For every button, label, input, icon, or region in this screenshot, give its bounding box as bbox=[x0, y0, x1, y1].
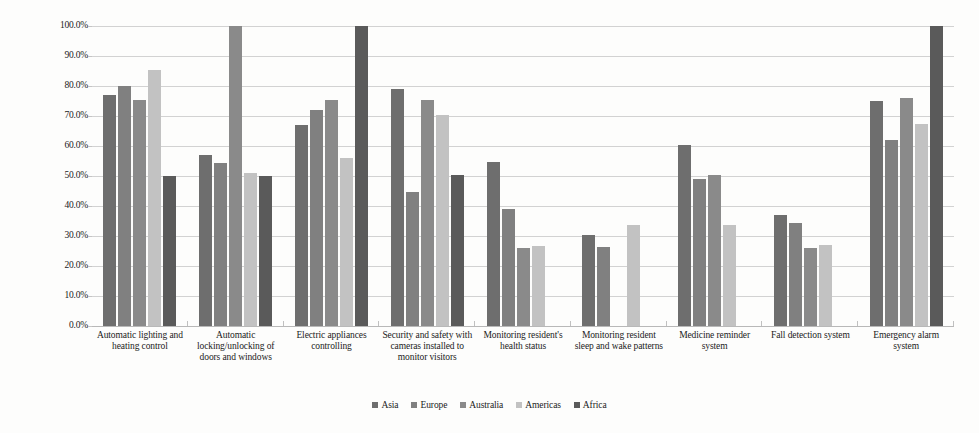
bar-groups bbox=[92, 26, 954, 326]
bar bbox=[148, 70, 161, 326]
y-axis-tick-label: 30.0% bbox=[30, 231, 88, 241]
bar bbox=[391, 89, 404, 326]
legend-item[interactable]: Africa bbox=[574, 400, 607, 410]
bar bbox=[310, 110, 323, 326]
bar bbox=[406, 192, 419, 326]
category-label: Monitoring resident sleep and wake patte… bbox=[571, 330, 667, 396]
bar bbox=[870, 101, 883, 326]
bar-group bbox=[188, 26, 284, 326]
legend-swatch-icon bbox=[411, 402, 417, 408]
legend-swatch-icon bbox=[372, 402, 378, 408]
bar bbox=[133, 100, 146, 326]
legend-label: Europe bbox=[420, 400, 447, 410]
bar-group bbox=[858, 26, 954, 326]
bar bbox=[693, 179, 706, 326]
y-axis-tick-label: 70.0% bbox=[30, 111, 88, 121]
category-label: Fall detection system bbox=[762, 330, 858, 396]
y-axis-tick-label: 80.0% bbox=[30, 81, 88, 91]
bar-group bbox=[475, 26, 571, 326]
bar bbox=[244, 173, 257, 326]
bar bbox=[789, 223, 802, 327]
legend-label: Australia bbox=[469, 400, 503, 410]
bar bbox=[915, 124, 928, 327]
legend-swatch-icon bbox=[516, 402, 522, 408]
bar bbox=[532, 246, 545, 326]
bar bbox=[340, 158, 353, 326]
category-axis-labels: Automatic lighting and heating controlAu… bbox=[92, 330, 954, 396]
bar bbox=[259, 176, 272, 326]
bar bbox=[930, 26, 943, 326]
bar bbox=[774, 215, 787, 326]
bar bbox=[229, 26, 242, 326]
bar bbox=[487, 162, 500, 326]
bar bbox=[355, 26, 368, 326]
y-axis: 100.0%90.0%80.0%70.0%60.0%50.0%40.0%30.0… bbox=[30, 26, 88, 326]
bar-group bbox=[667, 26, 763, 326]
bar bbox=[582, 235, 595, 327]
bar bbox=[627, 225, 640, 326]
category-label: Electric appliances controlling bbox=[284, 330, 380, 396]
y-axis-tick-label: 60.0% bbox=[30, 141, 88, 151]
bar-group bbox=[379, 26, 475, 326]
plot-area: 100.0%90.0%80.0%70.0%60.0%50.0%40.0%30.0… bbox=[0, 0, 979, 345]
legend-swatch-icon bbox=[460, 402, 466, 408]
bar bbox=[118, 86, 131, 326]
legend-label: Asia bbox=[381, 400, 398, 410]
legend-item[interactable]: Asia bbox=[372, 400, 398, 410]
y-axis-tick-mark bbox=[88, 326, 92, 327]
bar bbox=[502, 209, 515, 326]
category-label: Monitoring resident's health status bbox=[475, 330, 571, 396]
legend-label: Americas bbox=[525, 400, 561, 410]
category-label: Automatic lighting and heating control bbox=[92, 330, 188, 396]
bar-group bbox=[92, 26, 188, 326]
grid-area bbox=[92, 26, 954, 326]
bar-group bbox=[571, 26, 667, 326]
category-label: Automatic locking/unlocking of doors and… bbox=[188, 330, 284, 396]
legend-item[interactable]: Europe bbox=[411, 400, 447, 410]
bar bbox=[819, 245, 832, 326]
bar bbox=[421, 100, 434, 327]
y-axis-tick-label: 100.0% bbox=[30, 21, 88, 31]
y-axis-tick-label: 50.0% bbox=[30, 171, 88, 181]
bar-group bbox=[762, 26, 858, 326]
bar bbox=[436, 115, 449, 327]
y-axis-tick-label: 20.0% bbox=[30, 261, 88, 271]
bar bbox=[723, 225, 736, 326]
chart-legend: AsiaEuropeAustraliaAmericasAfrica bbox=[0, 400, 979, 410]
bar bbox=[199, 155, 212, 326]
bar bbox=[900, 98, 913, 326]
legend-item[interactable]: Australia bbox=[460, 400, 503, 410]
bar bbox=[295, 125, 308, 326]
category-label: Medicine reminder system bbox=[667, 330, 763, 396]
legend-item[interactable]: Americas bbox=[516, 400, 561, 410]
y-axis-tick-label: 40.0% bbox=[30, 201, 88, 211]
bar bbox=[597, 247, 610, 326]
bar bbox=[103, 95, 116, 326]
y-axis-tick-label: 90.0% bbox=[30, 51, 88, 61]
bar bbox=[214, 163, 227, 326]
category-label: Security and safety with cameras install… bbox=[379, 330, 475, 396]
axis-baseline bbox=[92, 326, 954, 327]
legend-label: Africa bbox=[583, 400, 607, 410]
bar bbox=[885, 140, 898, 326]
category-label: Emergency alarm system bbox=[858, 330, 954, 396]
bar-chart: 100.0%90.0%80.0%70.0%60.0%50.0%40.0%30.0… bbox=[0, 0, 979, 433]
legend-swatch-icon bbox=[574, 402, 580, 408]
y-axis-tick-label: 10.0% bbox=[30, 291, 88, 301]
bar bbox=[163, 176, 176, 326]
bar bbox=[325, 100, 338, 327]
bar bbox=[804, 248, 817, 326]
bar bbox=[678, 145, 691, 327]
y-axis-tick-label: 0.0% bbox=[30, 321, 88, 331]
bar bbox=[451, 175, 464, 327]
bar bbox=[517, 248, 530, 326]
bar-group bbox=[284, 26, 380, 326]
bar bbox=[708, 175, 721, 327]
